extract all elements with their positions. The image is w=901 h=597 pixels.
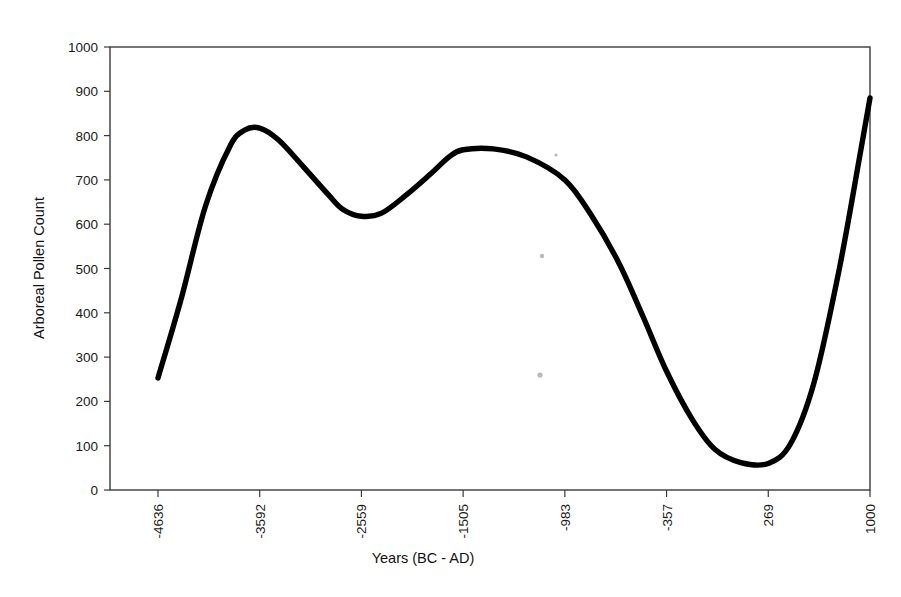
y-tick-label: 100 bbox=[75, 439, 98, 454]
x-tick-label: 269 bbox=[761, 504, 776, 527]
scan-speck bbox=[554, 153, 557, 156]
y-tick-label: 900 bbox=[75, 84, 98, 99]
x-tick-label: -357 bbox=[660, 504, 675, 531]
y-tick-label: 600 bbox=[75, 217, 98, 232]
x-tick-label: -1505 bbox=[456, 504, 471, 539]
y-axis-ticks: 01002003004005006007008009001000 bbox=[68, 40, 110, 498]
y-tick-label: 300 bbox=[75, 350, 98, 365]
x-tick-label: -3592 bbox=[253, 504, 268, 539]
y-tick-label: 400 bbox=[75, 306, 98, 321]
x-tick-label: 1000 bbox=[863, 504, 878, 534]
x-tick-label: -983 bbox=[558, 504, 573, 531]
y-tick-label: 0 bbox=[90, 483, 98, 498]
x-tick-label: -2559 bbox=[354, 504, 369, 539]
pollen-count-line-chart: 01002003004005006007008009001000 -4636-3… bbox=[0, 0, 901, 597]
y-tick-label: 500 bbox=[75, 262, 98, 277]
x-axis-ticks: -4636-3592-2559-1505-983-3572691000 bbox=[151, 490, 878, 539]
data-series-line bbox=[158, 98, 870, 465]
x-tick-label: -4636 bbox=[151, 504, 166, 539]
plot-area-border bbox=[110, 47, 870, 490]
x-axis-title: Years (BC - AD) bbox=[372, 550, 475, 566]
y-tick-label: 700 bbox=[75, 173, 98, 188]
y-tick-label: 1000 bbox=[68, 40, 98, 55]
y-tick-label: 800 bbox=[75, 129, 98, 144]
chart-figure: 01002003004005006007008009001000 -4636-3… bbox=[0, 0, 901, 597]
scan-speck bbox=[537, 372, 542, 377]
y-tick-label: 200 bbox=[75, 394, 98, 409]
y-axis-title: Arboreal Pollen Count bbox=[31, 197, 47, 339]
scan-speck bbox=[540, 254, 544, 258]
